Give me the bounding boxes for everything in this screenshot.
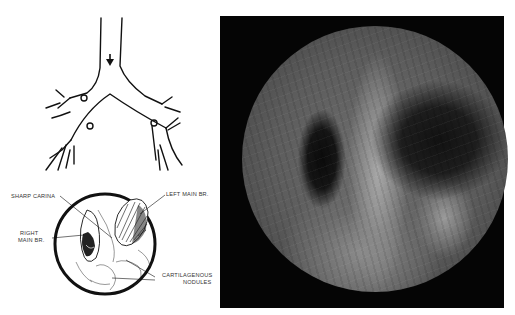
bronchial-tree-diagram: SHARP CARINA LEFT MAIN BR. RIGHT MAIN BR… (0, 0, 215, 315)
bronchoscopy-photo-panel (220, 16, 504, 308)
carina-view-illustration (52, 194, 165, 294)
trachea-bifurcation-illustration (0, 0, 215, 315)
label-left-main-bronchus: LEFT MAIN BR. (166, 191, 209, 198)
label-cartilagenous-nodules-line2: NODULES (183, 279, 211, 286)
label-sharp-carina: SHARP CARINA (11, 193, 55, 200)
label-right-main-bronchus-line2: MAIN BR. (18, 237, 44, 244)
bronchoscopic-image (242, 26, 508, 292)
mucosa-texture (242, 26, 508, 292)
label-right-main-bronchus-line1: RIGHT (20, 230, 38, 237)
label-cartilagenous-nodules-line1: CARTILAGENOUS (162, 272, 212, 279)
